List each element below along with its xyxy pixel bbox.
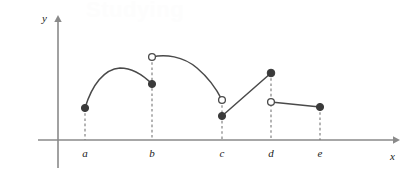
segment-c-to-d-path [222, 73, 271, 116]
x-tick-labels-group: a b c d e [82, 147, 322, 159]
x-tick-label-b: b [149, 147, 155, 159]
point-d-filled-dot [267, 69, 275, 77]
x-tick-label-c: c [220, 147, 225, 159]
endpoint-markers-group [81, 54, 323, 120]
point-b-filled-dot [148, 80, 155, 87]
point-c-open-dot [219, 97, 226, 104]
point-a-filled-dot [81, 104, 88, 111]
point-d-open-dot [268, 99, 275, 106]
function-curve-group [85, 56, 320, 116]
x-tick-label-e: e [318, 147, 323, 159]
x-tick-label-d: d [268, 147, 274, 159]
x-tick-label-a: a [82, 147, 88, 159]
point-e-filled-dot [316, 103, 323, 110]
segment-d-to-e-path [271, 102, 320, 107]
segment-a-to-b-path [85, 68, 152, 108]
x-axis-arrowhead [393, 136, 400, 144]
x-axis-label: x [389, 150, 395, 162]
dashed-drop-lines-group [85, 57, 320, 140]
y-axis-arrowhead [54, 15, 61, 22]
segment-b-to-c-path [152, 56, 222, 100]
point-c-filled-dot [218, 112, 225, 119]
function-graph-figure: Studying x y [0, 0, 411, 177]
graph-canvas: x y a [0, 0, 411, 177]
point-b-open-dot [149, 54, 156, 61]
y-axis-label: y [41, 12, 47, 24]
